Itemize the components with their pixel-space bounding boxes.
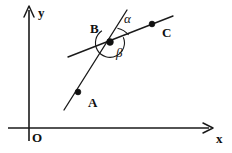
y-axis-label: y xyxy=(38,6,45,19)
geometry-diagram: y x O A B C α β xyxy=(0,0,232,153)
angle-label-beta: β xyxy=(116,46,122,59)
point-b-dot xyxy=(107,39,114,46)
point-a-dot xyxy=(75,89,81,95)
point-label-b: B xyxy=(90,22,99,35)
point-c-dot xyxy=(149,21,155,27)
point-label-a: A xyxy=(88,96,97,109)
point-label-c: C xyxy=(162,26,171,39)
x-axis-label: x xyxy=(216,132,223,145)
angle-label-alpha: α xyxy=(124,12,131,25)
origin-label: O xyxy=(32,131,42,144)
